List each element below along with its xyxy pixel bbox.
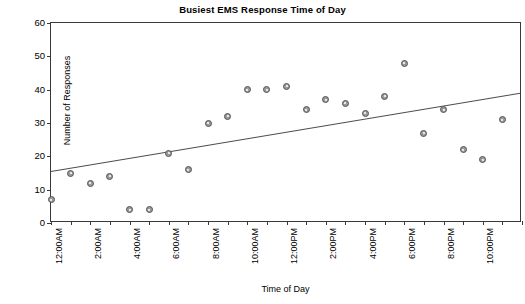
x-tick-label: 12:00PM <box>290 228 299 264</box>
chart-title: Busiest EMS Response Time of Day <box>0 4 525 16</box>
x-tick-mark <box>522 221 523 225</box>
x-tick-mark <box>444 221 445 225</box>
x-tick-label: 2:00PM <box>329 228 338 259</box>
data-point <box>381 93 388 100</box>
x-tick-label: 8:00AM <box>212 228 221 259</box>
x-tick-mark <box>247 221 248 225</box>
x-tick-label: 10:00AM <box>251 228 260 264</box>
plot-area: Number of Responses 0102030405060 12:00A… <box>50 22 521 222</box>
x-tick-label: 4:00PM <box>369 228 378 259</box>
x-tick-label: 6:00AM <box>172 228 181 259</box>
data-point <box>283 83 290 90</box>
data-point <box>67 170 74 177</box>
data-point <box>342 100 349 107</box>
x-tick-label: 4:00AM <box>133 228 142 259</box>
x-tick-mark <box>306 221 307 225</box>
x-tick-mark <box>326 221 327 225</box>
x-tick-mark <box>71 221 72 225</box>
data-point <box>185 166 192 173</box>
data-point <box>87 180 94 187</box>
x-axis-label: Time of Day <box>50 284 521 295</box>
x-tick-mark <box>208 221 209 225</box>
data-point <box>146 206 153 213</box>
x-tick-mark <box>287 221 288 225</box>
data-point <box>499 116 506 123</box>
trendline <box>51 23 520 221</box>
x-tick-label: 8:00PM <box>447 228 456 259</box>
data-point <box>420 130 427 137</box>
x-tick-mark <box>51 221 52 225</box>
x-tick-mark <box>483 221 484 225</box>
data-point <box>205 120 212 127</box>
x-tick-mark <box>424 221 425 225</box>
x-tick-mark <box>365 221 366 225</box>
x-tick-mark <box>90 221 91 225</box>
x-tick-mark <box>345 221 346 225</box>
x-tick-mark <box>385 221 386 225</box>
data-point <box>165 150 172 157</box>
x-tick-mark <box>228 221 229 225</box>
data-point <box>401 60 408 67</box>
x-tick-mark <box>188 221 189 225</box>
x-tick-mark <box>463 221 464 225</box>
data-point <box>362 110 369 117</box>
x-tick-mark <box>110 221 111 225</box>
data-point <box>460 146 467 153</box>
x-tick-mark <box>130 221 131 225</box>
x-tick-label: 6:00PM <box>408 228 417 259</box>
x-tick-mark <box>169 221 170 225</box>
x-tick-mark <box>149 221 150 225</box>
data-point <box>224 113 231 120</box>
x-tick-label: 10:00PM <box>486 228 495 264</box>
data-point <box>48 196 55 203</box>
chart-figure: Busiest EMS Response Time of Day Number … <box>0 0 525 304</box>
x-tick-label: 2:00AM <box>94 228 103 259</box>
x-tick-label: 12:00AM <box>55 228 64 264</box>
data-point <box>303 106 310 113</box>
data-point <box>244 86 251 93</box>
x-tick-mark <box>502 221 503 225</box>
x-tick-mark <box>404 221 405 225</box>
x-tick-mark <box>267 221 268 225</box>
